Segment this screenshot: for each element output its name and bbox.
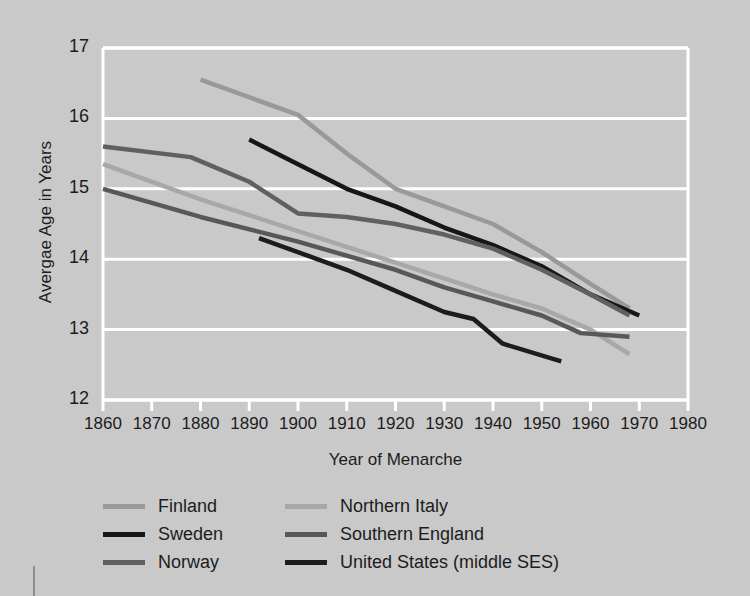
chart-figure: Avergae Age in Years Year of Menarche 12… (0, 0, 750, 596)
legend-item: Sweden (103, 520, 223, 548)
series-line (103, 147, 630, 316)
legend-item: Finland (103, 492, 223, 520)
legend-column-1: FinlandSwedenNorway (103, 492, 223, 576)
page-margin-rule (33, 566, 35, 596)
legend-item: Southern England (285, 520, 559, 548)
legend-column-2: Northern ItalySouthern EnglandUnited Sta… (285, 492, 559, 576)
legend-swatch (103, 532, 145, 537)
legend-swatch (103, 504, 145, 509)
legend-label: Norway (158, 553, 219, 571)
legend-label: Southern England (340, 525, 484, 543)
legend-swatch (285, 560, 327, 565)
legend-swatch (285, 532, 327, 537)
legend-label: Sweden (158, 525, 223, 543)
legend-item: Northern Italy (285, 492, 559, 520)
legend-label: Finland (158, 497, 217, 515)
legend-item: Norway (103, 548, 223, 576)
legend-item: United States (middle SES) (285, 548, 559, 576)
axis-tick-marks (103, 400, 688, 411)
legend-label: Northern Italy (340, 497, 448, 515)
data-series-group (103, 80, 639, 362)
legend-swatch (103, 560, 145, 565)
legend-swatch (285, 504, 327, 509)
legend-label: United States (middle SES) (340, 553, 559, 571)
